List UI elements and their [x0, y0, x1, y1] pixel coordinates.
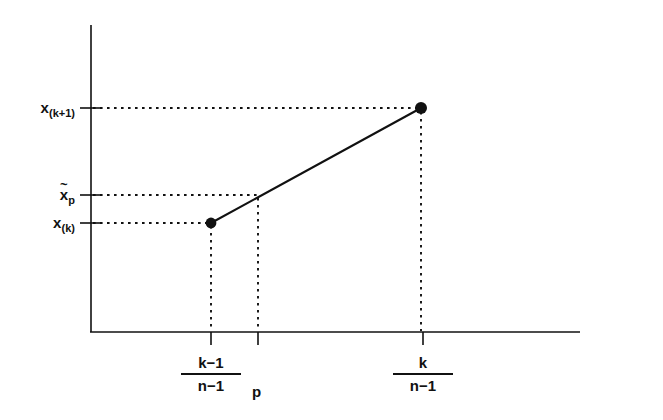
- x-tick-label-k-minus-1-over-n-minus-1: k−1 n−1: [181, 355, 241, 394]
- fraction-denominator-n-minus-1-left: n−1: [181, 377, 241, 394]
- x-tick-label-p: p: [252, 383, 261, 400]
- plot-canvas: [0, 0, 663, 420]
- x-tick-label-k-over-n-minus-1: k n−1: [393, 355, 453, 394]
- data-point-x-k: [206, 218, 217, 229]
- y-label-sub-x-tilde-p: p: [68, 194, 75, 206]
- y-label-base-x-k-plus-1: x: [40, 99, 49, 116]
- data-point-x-k-plus-1: [415, 102, 427, 114]
- fraction-numerator-k-minus-1: k−1: [181, 355, 241, 372]
- fraction-bar-right: [393, 373, 453, 375]
- y-tick-label-x-k-plus-1: x(k+1): [40, 100, 75, 119]
- fraction-numerator-k: k: [393, 355, 453, 372]
- tilde-accent-icon: ~: [60, 178, 68, 191]
- x-tilde-group: ~x: [60, 187, 69, 202]
- y-label-sub-x-k-plus-1: (k+1): [49, 107, 75, 119]
- y-label-sub-x-k: (k): [62, 222, 75, 234]
- interpolation-line-segment: [211, 108, 421, 223]
- fraction-bar-left: [181, 373, 241, 375]
- y-label-base-x-k: x: [53, 214, 62, 231]
- y-tick-label-x-k: x(k): [53, 215, 75, 234]
- y-tick-label-x-tilde-p: ~xp: [60, 187, 75, 206]
- fraction-denominator-n-minus-1-right: n−1: [393, 377, 453, 394]
- quantile-interpolation-figure: x(k+1) ~xp x(k) k−1 n−1 p k n−1: [0, 0, 663, 420]
